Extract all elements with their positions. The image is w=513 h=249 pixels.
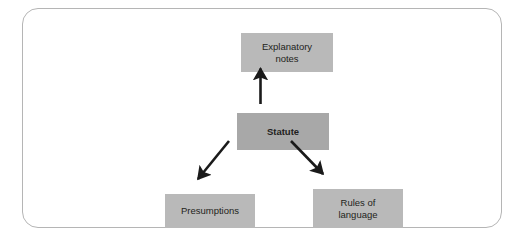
diagram-node-label: Statute xyxy=(237,126,329,138)
figure-caption xyxy=(30,238,290,249)
diagram-node-presumptions: Presumptions xyxy=(165,194,255,228)
diagram-node-label: Presumptions xyxy=(165,205,255,217)
diagram-node-label: Explanatory notes xyxy=(241,41,333,65)
diagram-node-label: Rules of language xyxy=(313,197,403,221)
diagram-node-explanatory-notes: Explanatory notes xyxy=(241,33,333,72)
diagram-node-statute: Statute xyxy=(237,113,329,150)
figure-frame: Explanatory notes Statute Presumptions R… xyxy=(22,8,502,228)
diagram-node-rules-of-language: Rules of language xyxy=(313,189,403,228)
